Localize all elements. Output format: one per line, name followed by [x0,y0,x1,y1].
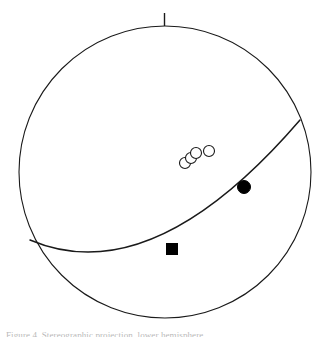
plot-background [0,0,332,337]
figure-caption: Figure 4. Stereographic projection, lowe… [6,330,332,337]
stereonet-plot [0,0,332,337]
open-circle-marker [204,146,215,157]
stereonet-figure: Figure 4. Stereographic projection, lowe… [0,0,332,337]
open-circle-marker [191,148,202,159]
filled-square-marker [167,244,178,255]
filled-circle-marker [238,181,251,194]
